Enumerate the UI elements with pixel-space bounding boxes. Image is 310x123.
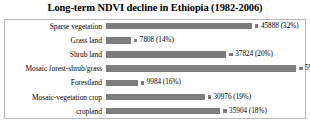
value-label: 35904 (18%)	[229, 107, 267, 116]
bar-mosaic-forest-shrub-grass	[106, 65, 296, 72]
bar-track: 7808 (14%)	[106, 33, 310, 47]
category-label: Mosaic-vegetation crop	[0, 93, 106, 102]
value-label: 30976 (19%)	[214, 93, 252, 102]
bar-row: Mosaic-vegetation crop 30976 (19%)	[0, 90, 310, 104]
bar-forestland	[106, 80, 138, 87]
bar-track: 45888 (32%)	[106, 19, 310, 33]
category-label: Forestland	[0, 78, 106, 87]
bar-grass-land	[106, 37, 131, 44]
bar-row: Mosaic forest-shrub/grass 59776 (27%)	[0, 62, 310, 76]
bar-row: Shrub land 37824 (20%)	[0, 47, 310, 61]
value-label-group: 35904 (18%)	[223, 107, 267, 116]
bar-track: 59776 (27%)	[106, 62, 310, 76]
value-label: 7808 (14%)	[140, 36, 174, 45]
value-label: 45888 (32%)	[261, 22, 299, 31]
value-label-group: 59776 (27%)	[299, 64, 310, 73]
category-label: cropland	[0, 107, 106, 116]
category-label: Mosaic forest-shrub/grass	[0, 64, 106, 73]
chart-title: Long-term NDVI decline in Ethiopia (1982…	[0, 2, 310, 13]
bar-track: 30976 (19%)	[106, 90, 310, 104]
bar-rows-container: Sparse vegetation 45888 (32%) Grass land…	[0, 19, 310, 119]
series-swatch-icon	[208, 95, 212, 99]
value-label: 9984 (16%)	[147, 78, 181, 87]
value-label: 37824 (20%)	[235, 50, 273, 59]
bar-track: 9984 (16%)	[106, 76, 310, 90]
bar-sparse-vegetation	[106, 23, 252, 30]
series-swatch-icon	[255, 24, 259, 28]
bar-mosaic-vegetation-crop	[106, 94, 205, 101]
value-label: 59776 (27%)	[305, 64, 310, 73]
value-label-group: 9984 (16%)	[141, 78, 181, 87]
series-swatch-icon	[229, 53, 233, 57]
series-swatch-icon	[141, 81, 145, 85]
value-label-group: 45888 (32%)	[255, 22, 299, 31]
bar-row: Sparse vegetation 45888 (32%)	[0, 19, 310, 33]
category-label: Shrub land	[0, 50, 106, 59]
bar-shrub-land	[106, 51, 226, 58]
category-label: Grass land	[0, 36, 106, 45]
category-label: Sparse vegetation	[0, 22, 106, 31]
value-label-group: 30976 (19%)	[208, 93, 252, 102]
series-swatch-icon	[223, 109, 227, 113]
bar-row: cropland 35904 (18%)	[0, 104, 310, 118]
bar-row: Grass land 7808 (14%)	[0, 33, 310, 47]
value-label-group: 37824 (20%)	[229, 50, 273, 59]
bar-row: Forestland 9984 (16%)	[0, 76, 310, 90]
bar-track: 37824 (20%)	[106, 47, 310, 61]
series-swatch-icon	[299, 67, 303, 71]
bar-track: 35904 (18%)	[106, 104, 310, 118]
value-label-group: 7808 (14%)	[134, 36, 174, 45]
bar-cropland	[106, 108, 220, 115]
series-swatch-icon	[134, 39, 138, 43]
ndvi-decline-bar-chart: Long-term NDVI decline in Ethiopia (1982…	[0, 0, 310, 123]
